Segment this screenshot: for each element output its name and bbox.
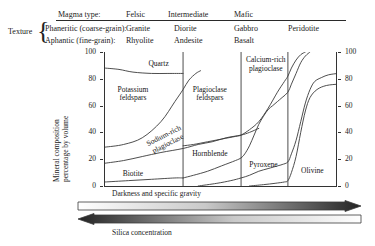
boundary-biotite-lower-boundary [105,178,183,182]
rock-granite: Granite [126,24,150,33]
tickmark-left [100,186,103,187]
rock-basalt: Basalt [234,36,254,45]
magma-type-felsic: Felsic [126,10,145,19]
ytick-right-0: 0 [345,182,363,190]
rock-rhyolite: Rhyolite [126,36,154,45]
ytick-right-20: 20 [345,155,363,163]
tickmark-right [338,79,341,80]
tickmark-left [100,159,103,160]
tickmark-right [338,132,341,133]
region-label-pyroxene: Pyroxene [249,160,277,169]
darkness-arrow [77,200,362,212]
region-label-olivine: Olivine [301,167,324,176]
tickmark-left [100,79,103,80]
ytick-right-60: 60 [345,102,363,110]
rock-gabbro: Gabbro [234,24,258,33]
texture-label: Texture [8,27,32,36]
silica-arrow-label: Silica concentration [112,228,172,237]
ytick-left-100: 100 [80,48,96,56]
rock-peridotite: Peridotite [288,24,319,33]
texture-row-0-label: Phaneritic (coarse-grain): [45,24,127,33]
region-label-potassium-feldspars: Potassiumfeldspars [118,86,149,103]
region-label-quartz: Quartz [148,60,168,69]
ytick-right-40: 40 [345,128,363,136]
rock-diorite: Diorite [174,24,197,33]
boundary-quartz-lower-boundary [105,68,183,73]
tickmark-right [338,186,341,187]
ytick-left-80: 80 [80,75,96,83]
header-rule-top [56,20,346,21]
plot-bottom-rule [104,186,337,187]
region-label-plagioclase-feldspars: Plagioclasefeldspars [193,86,227,103]
darkness-arrow-label: Darkness and specific gravity [112,189,201,198]
ytick-left-0: 0 [80,182,96,190]
tickmark-left [100,106,103,107]
ytick-left-60: 60 [80,102,96,110]
mineral-composition-plot: Quartz Potassiumfeldspars Sodium-richpla… [104,52,337,186]
rock-andesite: Andesite [174,36,202,45]
y-axis-label-line2: percentage by volume [61,116,70,182]
region-label-calcium-rich-plagioclase: Calcium-richplagioclase [246,57,286,74]
silica-arrow [77,213,362,225]
ytick-right-80: 80 [345,75,363,83]
region-label-biotite: Biotite [123,170,143,179]
texture-row-1-label: Aphantic (fine-grain): [45,36,115,45]
diagram-root: Texture { Magma type: Felsic Intermediat… [0,0,375,246]
magma-type-mafic: Mafic [234,10,253,19]
ytick-left-40: 40 [80,128,96,136]
tickmark-right [338,159,341,160]
ytick-left-20: 20 [80,155,96,163]
tickmark-left [100,132,103,133]
magma-type-label: Magma type: [58,10,100,19]
tickmark-left [100,52,103,53]
y-axis-label-line1: Mineral composition [52,119,61,182]
tickmark-right [338,52,341,53]
magma-type-intermediate: Intermediate [168,10,208,19]
region-label-hornblende: Hornblende [192,150,227,159]
tickmark-right [338,106,341,107]
ytick-right-100: 100 [345,48,363,56]
